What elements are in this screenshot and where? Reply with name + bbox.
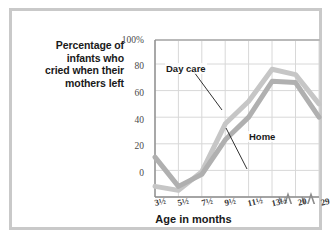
x-tick-label: 5½ [177, 196, 190, 208]
y-tick-label: 60 [110, 88, 144, 98]
x-tick-label: 9½ [224, 196, 237, 208]
x-tick-label: 11½ [246, 195, 263, 208]
y-tick-label: 0 [110, 168, 144, 178]
chart-svg [146, 32, 322, 204]
figure-frame: Percentage of infants who cried when the… [9, 8, 322, 230]
x-tick-label: 7½ [200, 196, 213, 208]
y-tick-label: 80 [110, 61, 144, 71]
x-axis-caption: Age in months [12, 213, 319, 225]
x-tick-label: 13½ [270, 195, 288, 208]
annotation-day-care: Day care [165, 63, 207, 74]
y-tick-label: 20 [110, 141, 144, 151]
y-tick-label: 40 [110, 115, 144, 125]
x-tick-label: 3½ [154, 196, 167, 208]
plot-area [146, 32, 310, 189]
annotation-home: Home [248, 131, 276, 142]
figure-inner: Percentage of infants who cried when the… [12, 11, 319, 227]
x-tick-label: 20 [297, 196, 308, 208]
x-tick-label: 29 [320, 196, 331, 208]
y-tick-label: 100% [110, 35, 144, 45]
